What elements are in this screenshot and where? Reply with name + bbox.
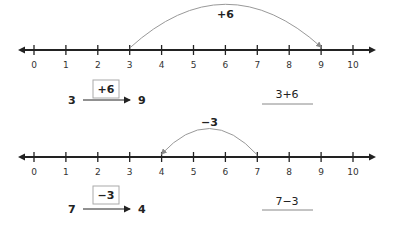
left-arrow-icon	[18, 154, 25, 161]
tick-label: 6	[223, 60, 229, 70]
mapping-end: 4	[138, 203, 146, 216]
tick-label: 10	[347, 60, 359, 70]
number-line-addition: 012345678910+6+6393+6	[18, 4, 376, 107]
mapping-end: 9	[138, 94, 146, 107]
tick-label: 5	[191, 60, 197, 70]
right-arrow-icon	[369, 154, 376, 161]
right-arrow-icon	[369, 47, 376, 54]
jump-arc	[162, 129, 258, 155]
tick-label: 2	[95, 167, 101, 177]
operation-label: +6	[98, 83, 115, 96]
tick-label: 6	[223, 167, 229, 177]
tick-label: 3	[127, 167, 133, 177]
tick-label: 0	[31, 167, 37, 177]
jump-label: −3	[201, 116, 218, 129]
tick-label: 1	[63, 60, 69, 70]
tick-label: 5	[191, 167, 197, 177]
operation-label: −3	[98, 189, 115, 202]
number-line-diagram: 012345678910+6+6393+6 012345678910−3−374…	[0, 0, 393, 233]
mapping-start: 7	[68, 203, 76, 216]
expression: 7−3	[275, 195, 298, 208]
tick-label: 8	[286, 60, 292, 70]
expression: 3+6	[275, 88, 298, 101]
tick-label: 4	[159, 60, 165, 70]
tick-label: 9	[318, 60, 324, 70]
number-line-subtraction: 012345678910−3−3747−3	[18, 116, 376, 216]
tick-label: 9	[318, 167, 324, 177]
tick-label: 0	[31, 60, 37, 70]
mapping-arrowhead-icon	[124, 206, 131, 213]
tick-label: 7	[254, 60, 260, 70]
tick-label: 8	[286, 167, 292, 177]
mapping-arrowhead-icon	[124, 97, 131, 104]
tick-label: 2	[95, 60, 101, 70]
tick-label: 4	[159, 167, 165, 177]
tick-label: 3	[127, 60, 133, 70]
left-arrow-icon	[18, 47, 25, 54]
tick-label: 10	[347, 167, 359, 177]
jump-label: +6	[217, 8, 234, 21]
mapping-start: 3	[68, 94, 76, 107]
tick-label: 1	[63, 167, 69, 177]
tick-label: 7	[254, 167, 260, 177]
